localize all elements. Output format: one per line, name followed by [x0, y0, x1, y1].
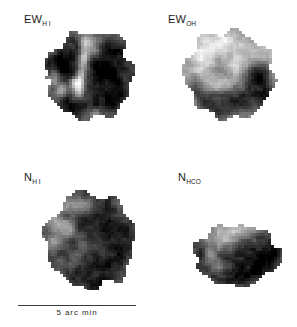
- panel-label-ew-oh: EWOH: [168, 14, 196, 25]
- map-canvas-ew-hi: [42, 28, 138, 124]
- panel-label-ew-hi: EWH I: [24, 14, 51, 25]
- panel-label-sub: H I: [32, 178, 41, 185]
- panel-label-n-h-left: NH I: [24, 172, 41, 183]
- scale-bar-label: 5 arc min: [18, 309, 136, 317]
- map-canvas-n-h-left: [42, 190, 138, 290]
- figure-root: EWH I EWOH NH I NHCO 5 arc min: [0, 0, 297, 327]
- panel-n-h-right: [190, 218, 282, 290]
- panel-label-main: N: [178, 171, 186, 183]
- panel-ew-oh: [182, 28, 278, 124]
- panel-label-sub: HCO: [186, 178, 201, 185]
- panel-label-sub: H I: [42, 20, 51, 27]
- panel-label-main: EW: [168, 13, 186, 25]
- panel-label-n-h-right: NHCO: [178, 172, 201, 183]
- panel-label-main: N: [24, 171, 32, 183]
- panel-ew-hi: [42, 28, 138, 124]
- panel-label-sub: OH: [186, 20, 196, 27]
- scale-bar-line: [18, 305, 136, 306]
- map-canvas-n-h-right: [190, 218, 282, 290]
- map-canvas-ew-oh: [182, 28, 278, 124]
- panel-label-main: EW: [24, 13, 42, 25]
- panel-n-h-left: [42, 190, 138, 290]
